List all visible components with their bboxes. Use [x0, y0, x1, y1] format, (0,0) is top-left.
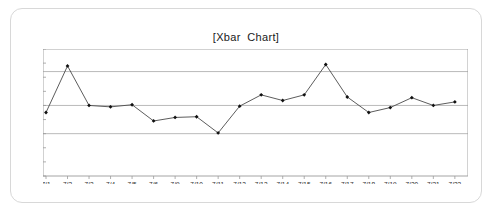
x-tick-label: 7/9: [171, 181, 180, 184]
x-tick-label: 7/14: [276, 181, 289, 184]
x-axis-labels: 7/17/27/37/47/57/67/97/107/117/127/137/1…: [43, 181, 462, 184]
chart-card: [Xbar Chart] 604603602601600599598597596…: [10, 8, 482, 203]
data-point-marker: [87, 104, 91, 108]
x-tick-label: 7/6: [149, 181, 158, 184]
data-point-marker: [44, 111, 48, 115]
x-tick-label: 7/16: [319, 181, 332, 184]
x-tick-label: 7/1: [43, 181, 51, 184]
x-tick-label: 7/2: [63, 181, 72, 184]
x-tick-label: 7/22: [449, 181, 462, 184]
control-lines: [43, 72, 468, 134]
data-markers: [44, 63, 457, 135]
data-point-marker: [66, 64, 70, 68]
data-point-marker: [453, 100, 457, 104]
x-tick-label: 7/21: [427, 181, 440, 184]
data-point-marker: [410, 96, 414, 100]
x-tick-label: 7/5: [128, 181, 137, 184]
data-point-marker: [431, 104, 435, 108]
x-tick-label: 7/13: [255, 181, 268, 184]
x-tick-label: 7/15: [298, 181, 311, 184]
x-tick-label: 7/17: [341, 181, 354, 184]
x-tick-label: 7/18: [362, 181, 375, 184]
chart-title: [Xbar Chart]: [11, 31, 481, 43]
x-tick-label: 7/20: [405, 181, 418, 184]
data-point-marker: [281, 99, 285, 103]
x-tick-label: 7/11: [212, 181, 225, 184]
data-point-marker: [259, 93, 263, 97]
data-series: [46, 65, 455, 133]
data-point-marker: [388, 106, 392, 110]
x-tick-label: 7/19: [384, 181, 397, 184]
x-tick-label: 7/4: [106, 181, 115, 184]
plot-frame: [43, 49, 468, 176]
data-point-marker: [173, 116, 177, 120]
x-tick-label: 7/10: [190, 181, 203, 184]
series-line-xbar: [46, 65, 455, 133]
x-tick-label: 7/12: [233, 181, 246, 184]
chart-svg: 604603602601600599598597596595 7/17/27/3…: [43, 49, 468, 184]
xbar-chart-plot: 604603602601600599598597596595 7/17/27/3…: [43, 49, 468, 184]
x-tick-label: 7/3: [85, 181, 94, 184]
